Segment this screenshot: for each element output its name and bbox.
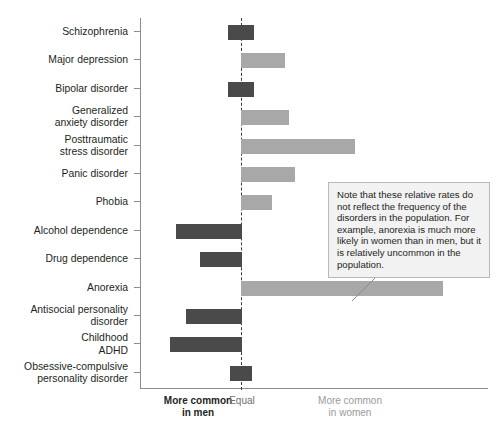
category-label-line2: anxiety disorder (55, 117, 128, 128)
category-label: Bipolar disorder (0, 83, 128, 95)
category-label-line1: Posttraumatic (64, 133, 128, 144)
axis-tick (134, 258, 141, 259)
category-label-line1: Phobia (96, 196, 128, 207)
bar-women (241, 195, 272, 210)
bar-women (241, 139, 355, 154)
category-label-line1: Panic disorder (62, 168, 128, 179)
category-label: Alcohol dependence (0, 225, 128, 237)
bar-row: Bipolar disorder (0, 75, 501, 103)
axis-tick (134, 173, 141, 174)
bar-row: Schizophrenia (0, 18, 501, 46)
bar-men (228, 82, 254, 97)
category-label: Schizophrenia (0, 26, 128, 38)
category-label: ChildhoodADHD (0, 332, 128, 357)
bar-row: Antisocial personalitydisorder (0, 302, 501, 330)
category-label-line1: Obsessive-compulsive (24, 361, 128, 372)
bar-men (200, 252, 242, 267)
bar-women (241, 53, 285, 68)
bar-men (228, 25, 254, 40)
bar-women (241, 281, 443, 296)
bar-row: Major depression (0, 46, 501, 74)
category-label: Major depression (0, 54, 128, 66)
axis-tick (134, 372, 141, 373)
category-label-line2: personality disorder (37, 373, 128, 384)
axis-tick (134, 230, 141, 231)
axis-tick (134, 201, 141, 202)
bar-row: ChildhoodADHD (0, 330, 501, 358)
category-label: Panic disorder (0, 168, 128, 180)
category-label: Phobia (0, 196, 128, 208)
category-label: Obsessive-compulsivepersonality disorder (0, 361, 128, 386)
diverging-bar-chart: SchizophreniaMajor depressionBipolar dis… (0, 0, 501, 446)
category-label-line1: Drug dependence (45, 253, 128, 264)
axis-tick (134, 31, 141, 32)
bar-women (241, 110, 289, 125)
axis-tick (134, 343, 141, 344)
bar-women (241, 167, 295, 182)
axis-tick (134, 315, 141, 316)
category-label-line1: Antisocial personality (30, 304, 128, 315)
axis-tick (134, 116, 141, 117)
axis-caption-women-line2: in women (329, 407, 372, 418)
category-label-line1: Childhood (81, 332, 128, 343)
category-label-line1: Anorexia (87, 281, 128, 292)
category-label: Generalizedanxiety disorder (0, 105, 128, 130)
category-label-line1: Schizophrenia (62, 26, 128, 37)
category-label-line2: disorder (90, 316, 128, 327)
category-label: Anorexia (0, 281, 128, 293)
axis-caption-men-line2: in men (182, 407, 214, 418)
bar-men (170, 337, 242, 352)
axis-caption-women-line1: More common (318, 395, 382, 406)
x-axis-line (140, 388, 488, 389)
axis-tick (134, 287, 141, 288)
bar-row: Posttraumaticstress disorder (0, 132, 501, 160)
category-label-line2: stress disorder (60, 146, 128, 157)
axis-caption-women: More common in women (280, 395, 420, 419)
category-label-line1: Bipolar disorder (55, 83, 128, 94)
category-label-line1: Generalized (72, 105, 128, 116)
category-label: Antisocial personalitydisorder (0, 304, 128, 329)
bar-men (176, 224, 242, 239)
bar-men (186, 309, 242, 324)
annotation-callout: Note that these relative rates do not re… (328, 182, 490, 278)
bar-row: Generalizedanxiety disorder (0, 103, 501, 131)
category-label-line1: Major depression (48, 54, 128, 65)
axis-tick (134, 59, 141, 60)
bar-men (230, 366, 252, 381)
category-label-line2: ADHD (99, 344, 128, 355)
category-label: Drug dependence (0, 253, 128, 265)
bar-row: Obsessive-compulsivepersonality disorder (0, 359, 501, 387)
category-label: Posttraumaticstress disorder (0, 133, 128, 158)
category-label-line1: Alcohol dependence (34, 225, 128, 236)
axis-tick (134, 145, 141, 146)
axis-tick (134, 88, 141, 89)
axis-caption-equal: Equal (216, 395, 268, 407)
